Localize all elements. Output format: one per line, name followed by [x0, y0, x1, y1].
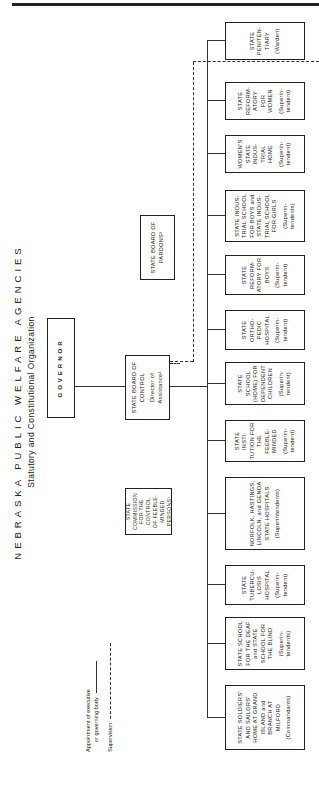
governor-to-board-line — [75, 386, 125, 387]
stub-penitentiary — [207, 40, 225, 41]
institution-deaf-blind: STATE SCHOOL FOR THE DEAF and STATE SCHO… — [225, 617, 305, 670]
board-of-control-box: STATE BOARD OF CONTROL Director of Assis… — [125, 355, 170, 420]
trunk-line — [207, 40, 208, 718]
stub-reformatory-boys — [207, 274, 225, 275]
institution-womens-industrial-home: WOMEN'S STATE INDUS- TRIAL HOME (Superin… — [225, 135, 305, 173]
stub-soldiers — [207, 717, 225, 718]
institution-reformatory-boys: STATE REFORM- ATORY FOR BOYS (Superin- t… — [225, 255, 305, 295]
supervision-dash-right — [193, 61, 319, 62]
stub-womens-home — [207, 153, 225, 154]
chart-subtitle: Statutory and Constitutional Organizatio… — [26, 142, 36, 662]
stub-tuberculosis — [207, 584, 225, 585]
board-to-trunk-line — [170, 386, 207, 387]
institution-feeble-minded: STATE INSTI- TUTION FOR THE FEEBLE- MIND… — [225, 420, 305, 462]
solid-line-sample — [96, 661, 97, 693]
dashed-line-sample — [110, 643, 111, 719]
institution-tuberculosis: STATE TUBERCU- LOSIS HOSPITAL (Superin- … — [225, 565, 305, 605]
supervision-dash-2 — [170, 361, 193, 362]
institution-industrial-schools: STATE INDUS- TRIAL SCHOOL FOR BOYS and S… — [225, 190, 305, 242]
institution-state-hospitals: NORFOLK, HASTINGS, LINCOLN, and GENOA ST… — [225, 477, 305, 550]
institution-penitentiary: STATE PENITEN- TIARY (Warden) — [225, 22, 305, 60]
institution-soldiers-home: STATE SOLDIERS' AND SAILORS' HOME AT GRA… — [225, 685, 305, 750]
chart-title: NEBRASKA PUBLIC WELFARE AGENCIES — [12, 142, 23, 662]
stub-dependent-children — [207, 383, 225, 384]
org-chart: NEBRASKA PUBLIC WELFARE AGENCIES Statuto… — [0, 0, 319, 792]
commission-feeble-minded-box: STATE COMMISSION FOR THE CONTROL OF FEEB… — [125, 488, 172, 535]
institution-orthopedic: STATE ORTHO- PEDIC HOSPITAL (Superin- te… — [225, 310, 305, 350]
stub-industrial-schools — [207, 215, 225, 216]
stub-deaf-blind — [207, 643, 225, 644]
stub-hospitals — [207, 513, 225, 514]
board-of-pardons-box: STATE BOARD OF PARDONS³ — [140, 215, 175, 280]
supervision-dash-1 — [170, 363, 180, 364]
stub-reformatory-women — [207, 100, 225, 101]
top-rule — [12, 3, 319, 6]
stub-feeble-minded — [207, 440, 225, 441]
legend-supervision: Supervision — [106, 643, 114, 752]
supervision-dash-horizontal — [193, 62, 194, 362]
legend-appointment: Appointment of executive or governing bo… — [84, 661, 100, 752]
stub-orthopedic — [207, 329, 225, 330]
institution-reformatory-women: STATE REFORM- ATORY FOR WOMEN (Superin- … — [225, 82, 305, 120]
institution-dependent-children: STATE SCHOOL (HOME) FOR DEPENDENT CHILDR… — [225, 362, 305, 405]
governor-box: GOVERNOR — [47, 318, 75, 418]
